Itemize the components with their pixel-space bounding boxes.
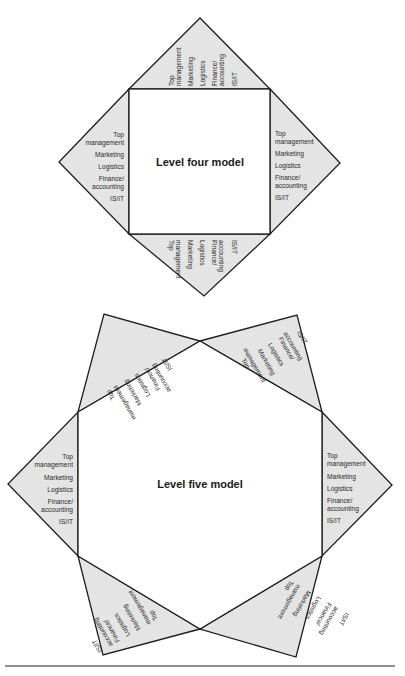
l5-bottom-right-label-isit: IS/IT bbox=[338, 612, 351, 628]
l4-bottom-label-accounting: accounting bbox=[217, 240, 225, 272]
l4-bottom-label-management: management bbox=[174, 240, 182, 279]
l5-left-label-accounting: accounting bbox=[41, 506, 73, 514]
l5-triangle-left bbox=[8, 412, 78, 556]
l4-bottom-label-marketing: Marketing bbox=[186, 240, 194, 269]
l4-top-label-isit: IS/IT bbox=[231, 72, 238, 86]
l4-left-label-logistics: Logistics bbox=[98, 163, 124, 171]
diagram-canvas: Level four model Top management Marketin… bbox=[0, 0, 405, 676]
l4-left-label-finance: Finance/ bbox=[99, 175, 124, 182]
l5-right-label-top: Top bbox=[327, 452, 338, 460]
l4-right-label-finance: Finance/ bbox=[275, 174, 300, 181]
l4-left-label-isit: IS/IT bbox=[110, 195, 124, 202]
l5-right-label-accounting: accounting bbox=[327, 505, 359, 513]
l5-triangle-right bbox=[322, 412, 392, 556]
l4-triangle-left bbox=[59, 89, 129, 234]
l4-right-label-isit: IS/IT bbox=[275, 194, 289, 201]
l5-right-label-finance: Finance/ bbox=[327, 497, 352, 504]
l4-right-label-logistics: Logistics bbox=[275, 162, 301, 170]
l5-right-label-logistics: Logistics bbox=[327, 485, 353, 493]
l5-left-label-marketing: Marketing bbox=[44, 474, 73, 482]
l5-left-label-logistics: Logistics bbox=[47, 486, 73, 494]
l4-bottom-label-isit: IS/IT bbox=[231, 240, 238, 254]
l4-title: Level four model bbox=[156, 156, 244, 168]
l4-top-label-logistics: Logistics bbox=[199, 60, 207, 86]
l4-top-label-accounting: accounting bbox=[218, 54, 226, 86]
l4-top-label-marketing: Marketing bbox=[187, 57, 195, 86]
l5-title: Level five model bbox=[157, 478, 243, 490]
l4-right-label-accounting: accounting bbox=[275, 182, 307, 190]
l4-top-label-management: management bbox=[175, 47, 183, 86]
l4-top-label-finance: Finance/ bbox=[211, 61, 218, 86]
l4-left-label-accounting: accounting bbox=[92, 183, 124, 191]
l5-right-label-management: management bbox=[327, 460, 366, 468]
l5-right-label-marketing: Marketing bbox=[327, 473, 356, 481]
l4-left-label-management: management bbox=[86, 139, 125, 147]
level-four-model: Level four model Top management Marketin… bbox=[59, 18, 340, 296]
l5-left-label-top: Top bbox=[62, 453, 73, 461]
l5-left-label-isit: IS/IT bbox=[59, 518, 73, 525]
l4-right-label-management: management bbox=[275, 138, 314, 146]
l4-bottom-label-finance: Finance/ bbox=[211, 240, 218, 265]
l4-right-label-top: Top bbox=[275, 130, 286, 138]
l5-right-label-isit: IS/IT bbox=[327, 517, 341, 524]
l5-left-label-management: management bbox=[35, 461, 74, 469]
l4-bottom-label-top: Top bbox=[167, 240, 175, 251]
l4-right-label-marketing: Marketing bbox=[275, 150, 304, 158]
l4-bottom-label-logistics: Logistics bbox=[198, 240, 206, 266]
l4-left-label-top: Top bbox=[113, 131, 124, 139]
l4-left-label-marketing: Marketing bbox=[95, 151, 124, 159]
l5-left-label-finance: Finance/ bbox=[48, 498, 73, 505]
level-five-model: Level five model Top management Marketin… bbox=[8, 314, 392, 657]
